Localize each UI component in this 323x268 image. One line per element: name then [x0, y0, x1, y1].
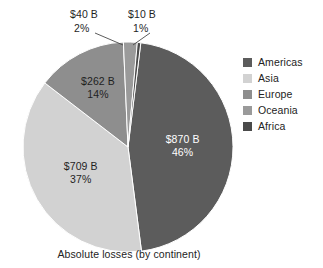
slice-value-americas: $870 B [166, 133, 200, 145]
chart-caption: Absolute losses (by continent) [0, 248, 258, 260]
legend-label: Americas [258, 54, 303, 70]
legend-swatch-icon [243, 106, 252, 115]
legend-label: Oceania [258, 102, 298, 118]
legend-item-africa[interactable]: Africa [243, 118, 323, 134]
legend-label: Asia [258, 70, 279, 86]
legend-item-asia[interactable]: Asia [243, 70, 323, 86]
legend-swatch-icon [243, 90, 252, 99]
chart-legend: AmericasAsiaEuropeOceaniaAfrica [243, 54, 323, 134]
slice-percent-europe: 14% [87, 88, 108, 100]
pie-chart-figure: $870 B46%$709 B37%$262 B14% $40 B 2% $10… [0, 0, 323, 268]
slice-value-asia: $709 B [64, 160, 98, 172]
legend-swatch-icon [243, 58, 252, 67]
callout-percent-oceania: 2% [74, 22, 89, 34]
pie-chart-canvas: $870 B46%$709 B37%$262 B14% $40 B 2% $10… [0, 0, 323, 268]
legend-label: Africa [258, 118, 285, 134]
callout-value-oceania: $40 B [70, 8, 98, 20]
slice-value-europe: $262 B [81, 75, 115, 87]
callout-percent-africa: 1% [133, 22, 148, 34]
pie-slices [23, 42, 233, 252]
callout-value-africa: $10 B [128, 8, 156, 20]
leader-line-oceania [95, 33, 123, 45]
slice-percent-americas: 46% [172, 146, 193, 158]
legend-swatch-icon [243, 74, 252, 83]
callout-labels: $40 B 2% $10 B 1% [70, 8, 156, 34]
legend-item-europe[interactable]: Europe [243, 86, 323, 102]
slice-percent-asia: 37% [70, 173, 91, 185]
legend-item-americas[interactable]: Americas [243, 54, 323, 70]
legend-swatch-icon [243, 122, 252, 131]
legend-label: Europe [258, 86, 292, 102]
legend-item-oceania[interactable]: Oceania [243, 102, 323, 118]
